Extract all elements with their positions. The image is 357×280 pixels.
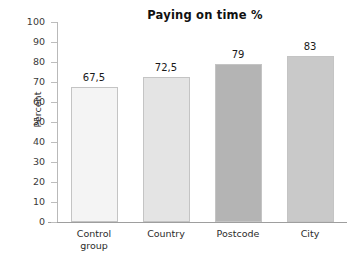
- y-axis-tick-label: 0: [0, 217, 45, 227]
- y-axis-tick-label: 100: [0, 17, 45, 27]
- y-axis-tick: [51, 162, 57, 163]
- y-axis-tick: [51, 82, 57, 83]
- y-axis-tick: [51, 202, 57, 203]
- y-axis-tick-label: 20: [0, 177, 45, 187]
- y-axis-tick: [51, 62, 57, 63]
- y-axis-tick: [51, 122, 57, 123]
- y-axis-tick: [51, 182, 57, 183]
- bar-value-label: 72,5: [130, 62, 202, 73]
- x-axis-baseline: [48, 222, 347, 223]
- bar: [143, 77, 190, 222]
- y-axis-tick: [51, 22, 57, 23]
- y-axis-tick-label: 30: [0, 157, 45, 167]
- y-axis-tick: [51, 102, 57, 103]
- y-axis-tick-label: 50: [0, 117, 45, 127]
- y-axis-tick-label: 60: [0, 97, 45, 107]
- chart-title: Paying on time %: [60, 8, 350, 22]
- y-axis-tick-label: 70: [0, 77, 45, 87]
- y-axis-line: [57, 22, 58, 222]
- x-axis-tick-label-line: group: [52, 240, 136, 252]
- bar-chart: Paying on time % Percent 100908070605040…: [0, 0, 357, 280]
- y-axis-tick-label: 80: [0, 57, 45, 67]
- bar-value-label: 83: [274, 41, 346, 52]
- y-axis-tick-label: 40: [0, 137, 45, 147]
- y-axis-tick: [51, 42, 57, 43]
- bar: [71, 87, 118, 222]
- bar-value-label: 79: [202, 49, 274, 60]
- bar: [287, 56, 334, 222]
- y-axis-tick: [51, 222, 57, 223]
- y-axis-tick-label: 90: [0, 37, 45, 47]
- bar-value-label: 67,5: [58, 72, 130, 83]
- bar: [215, 64, 262, 222]
- x-axis-tick-label: City: [268, 228, 352, 240]
- x-axis-tick-label-line: City: [268, 228, 352, 240]
- y-axis-tick: [51, 142, 57, 143]
- y-axis-tick-label: 10: [0, 197, 45, 207]
